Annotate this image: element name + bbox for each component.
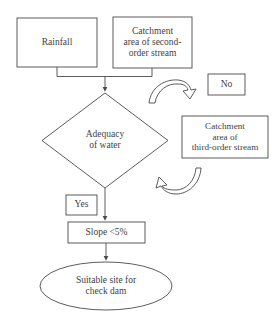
flowchart-diagram: Rainfall Catchment area of second- order… [0,0,278,323]
node-slope-shape [68,222,145,243]
node-no-shape [208,74,245,95]
node-second-order-shape [113,17,192,68]
node-adequacy-shape [42,93,168,188]
node-third-order-shape [182,116,268,158]
curved-arrow-to-no [149,80,196,103]
node-suitable-shape [40,262,172,310]
curved-arrow-from-third-order [156,168,201,194]
node-rainfall-shape [17,18,97,67]
flowchart-canvas [0,0,278,323]
node-yes-shape [66,195,97,215]
